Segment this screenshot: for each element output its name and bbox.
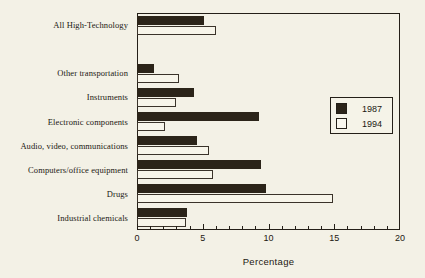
x-tick-major [203,224,204,230]
category-label: Audio, video, communications [20,141,128,151]
x-tick-minor [229,226,230,230]
x-tick-minor [163,226,164,230]
legend-swatch-1994 [336,118,347,129]
x-tick-minor [150,226,151,230]
x-tick-minor [295,226,296,230]
x-tick-minor [242,226,243,230]
x-tick-minor [361,226,362,230]
legend-label-1987: 1987 [362,104,382,114]
bar-chart: All High-TechnologyOther transportationI… [0,0,425,278]
bar-1987-Instruments [137,88,194,97]
bar-1987-Audio, video, communications [137,136,197,145]
x-tick-label: 0 [134,233,139,243]
bar-1987-Industrial chemicals [137,208,187,217]
category-label: Electronic components [48,117,128,127]
x-tick-minor [255,226,256,230]
category-label: Computers/office equipment [28,165,128,175]
x-tick-minor [190,226,191,230]
category-label: Industrial chemicals [57,213,128,223]
x-tick-label: 5 [200,233,205,243]
x-tick-label: 10 [263,233,273,243]
bar-1994-Other transportation [137,74,179,83]
bar-1994-Computers/office equipment [137,170,213,179]
bar-1994-Audio, video, communications [137,146,209,155]
bar-1987-Drugs [137,184,266,193]
x-tick-minor [347,226,348,230]
bar-1987-Other transportation [137,64,154,73]
x-tick-minor [387,226,388,230]
x-axis-title: Percentage [137,256,400,267]
x-tick-minor [374,226,375,230]
legend-entry-1994: 1994 [336,117,382,130]
legend-entry-1987: 1987 [336,102,382,115]
x-tick-minor [282,226,283,230]
category-axis-labels: All High-TechnologyOther transportationI… [0,13,133,230]
bar-1987-Electronic components [137,112,259,121]
x-tick-major [269,224,270,230]
x-tick-label: 15 [329,233,339,243]
x-tick-major [137,224,138,230]
legend-label-1994: 1994 [362,119,382,129]
x-tick-minor [321,226,322,230]
x-tick-major [334,224,335,230]
category-label: Instruments [87,92,128,102]
x-tick-minor [308,226,309,230]
x-tick-label: 20 [395,233,405,243]
chart-legend: 1987 1994 [330,97,393,134]
category-label: Other transportation [57,68,128,78]
bar-1994-Instruments [137,98,176,107]
bar-1994-Drugs [137,194,333,203]
x-tick-minor [176,226,177,230]
bar-1994-Industrial chemicals [137,218,186,227]
x-tick-major [399,224,400,230]
category-label: Drugs [107,189,128,199]
bar-1987-All High-Technology [137,16,204,25]
x-tick-minor [216,226,217,230]
bar-1987-Computers/office equipment [137,160,261,169]
legend-swatch-1987 [336,103,347,114]
category-label: All High-Technology [53,20,128,30]
bar-1994-Electronic components [137,122,165,131]
bar-1994-All High-Technology [137,26,216,35]
